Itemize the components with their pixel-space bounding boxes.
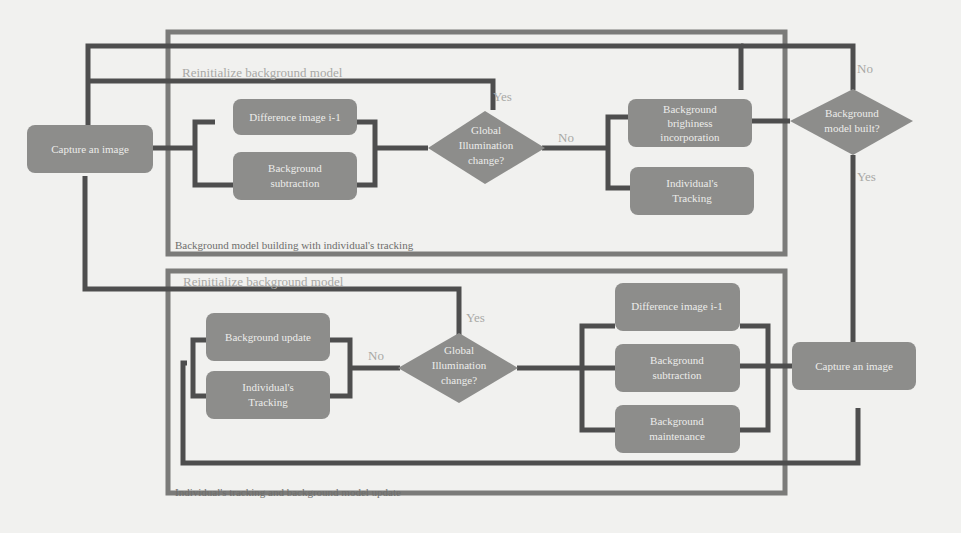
svg-text:Capture an image: Capture an image — [51, 143, 129, 155]
svg-text:subtraction: subtraction — [271, 177, 320, 189]
svg-text:Global: Global — [444, 344, 474, 356]
svg-text:Tracking: Tracking — [248, 396, 288, 408]
bottom-tracking-node: Individual's Tracking — [206, 371, 330, 419]
svg-text:Tracking: Tracking — [672, 192, 712, 204]
top-brightness-node: Background brighiness incorporation — [628, 99, 752, 147]
bottom-yes-illum-label: Yes — [466, 310, 485, 325]
svg-text:Difference image i-1: Difference image i-1 — [249, 111, 340, 123]
svg-text:Background: Background — [650, 415, 704, 427]
top-yes-built-label: Yes — [857, 169, 876, 184]
svg-text:subtraction: subtraction — [653, 369, 702, 381]
top-model-built-decision: Background model built? — [790, 89, 913, 155]
bottom-section-caption: Individual's tracking and background mod… — [175, 486, 401, 498]
bottom-difference-node: Difference image i-1 — [615, 283, 740, 331]
top-no-illum-label: No — [558, 130, 574, 145]
top-reinit-label: Reinitialize background model — [182, 65, 343, 80]
bottom-bg-update-node: Background update — [206, 313, 330, 361]
top-capture-node: Capture an image — [27, 125, 153, 173]
svg-text:Difference image i-1: Difference image i-1 — [631, 300, 722, 312]
flowchart-diagram: Capture an image Difference image i-1 Ba… — [0, 0, 961, 533]
top-illumination-decision: Global Illumination change? — [428, 111, 545, 184]
svg-text:change?: change? — [468, 154, 504, 166]
svg-text:Global: Global — [471, 124, 501, 136]
svg-text:Background update: Background update — [225, 331, 311, 343]
bottom-reinit-label: Reinitialize background model — [183, 274, 344, 289]
svg-text:brighiness: brighiness — [667, 117, 712, 129]
svg-text:Background: Background — [650, 354, 704, 366]
svg-text:incorporation: incorporation — [660, 131, 720, 143]
bottom-illumination-decision: Global Illumination change? — [398, 333, 518, 403]
svg-text:Capture an image: Capture an image — [815, 360, 893, 372]
svg-text:Illumination: Illumination — [432, 359, 487, 371]
bottom-bg-maintenance-node: Background maintenance — [615, 405, 740, 453]
top-yes-illum-label: Yes — [493, 89, 512, 104]
top-no-built-label: No — [857, 61, 873, 76]
top-bg-subtraction-node: Background subtraction — [233, 152, 357, 200]
svg-text:maintenance: maintenance — [649, 430, 705, 442]
svg-text:Individual's: Individual's — [242, 381, 293, 393]
svg-text:Background: Background — [663, 103, 717, 115]
svg-text:Individual's: Individual's — [666, 177, 717, 189]
svg-text:Background: Background — [825, 107, 879, 119]
svg-text:model built?: model built? — [824, 122, 879, 134]
svg-text:change?: change? — [441, 374, 477, 386]
bottom-no-illum-label: No — [368, 348, 384, 363]
svg-text:Illumination: Illumination — [459, 139, 514, 151]
top-tracking-node: Individual's Tracking — [630, 167, 754, 215]
top-difference-node: Difference image i-1 — [233, 99, 357, 135]
built-no-wire — [741, 46, 853, 90]
bottom-bg-subtraction-node: Background subtraction — [615, 344, 740, 392]
bottom-capture-node: Capture an image — [792, 342, 916, 390]
svg-text:Background: Background — [268, 162, 322, 174]
top-section-caption: Background model building with individua… — [175, 239, 414, 251]
